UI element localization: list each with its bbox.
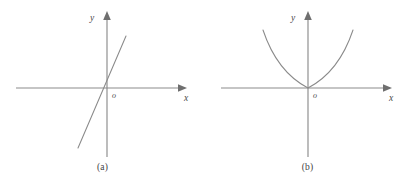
x-axis-arrow-icon-b	[383, 84, 392, 92]
origin-label-a: o	[112, 91, 116, 100]
x-axis-label-b: x	[388, 93, 394, 103]
panel-caption-a: (a)	[0, 162, 205, 172]
origin-label-b: o	[313, 91, 317, 100]
linear-function-curve	[78, 36, 126, 148]
y-axis-arrow-icon-a	[103, 11, 111, 20]
y-axis-arrow-icon-b	[304, 11, 312, 20]
figure-panel-b: y x o (b)	[205, 0, 410, 190]
y-axis-label-a: y	[89, 13, 95, 23]
panel-caption-b: (b)	[205, 162, 410, 172]
figure-board: y x o (a) y x o (b)	[0, 0, 411, 190]
figure-panel-a: y x o (a)	[0, 0, 205, 190]
x-axis-arrow-icon-a	[178, 84, 187, 92]
y-axis-label-b: y	[290, 13, 296, 23]
x-axis-label-a: x	[183, 93, 189, 103]
